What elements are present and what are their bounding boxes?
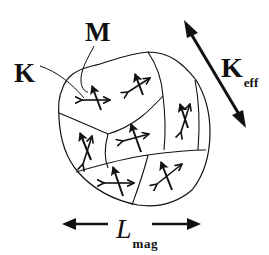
grain-boundary [59,113,108,134]
label-k-eff: Keff [221,54,258,82]
grain-diagram: K M Keff Lmag [0,0,269,255]
lmag-left-arrow [62,218,108,230]
label-l-mag-subscript: mag [133,236,158,251]
grain-4-arrows [80,133,92,164]
grain-boundary [148,52,163,96]
grain-boundary [108,96,163,134]
grain-boundary [195,80,199,150]
label-l-mag: Lmag [116,215,158,243]
grain-boundary [163,96,165,150]
grain-3-arrows [180,104,190,132]
grain-1-arrows [82,86,110,110]
grain-2-arrows [128,74,150,95]
grain-7-arrows [157,162,182,190]
label-k-eff-subscript: eff [244,75,258,90]
m-pointer-line [81,46,94,92]
grain-boundary [132,155,148,205]
label-m-magnetization: M [85,19,110,46]
grain-boundary [76,150,206,172]
lmag-right-arrow [152,218,201,230]
label-k-local-anisotropy: K [14,60,35,87]
label-k-eff-main: K [221,52,243,83]
label-l-mag-main: L [116,213,132,244]
grain-6-arrows [104,167,134,196]
grain-5-arrows [123,124,149,152]
